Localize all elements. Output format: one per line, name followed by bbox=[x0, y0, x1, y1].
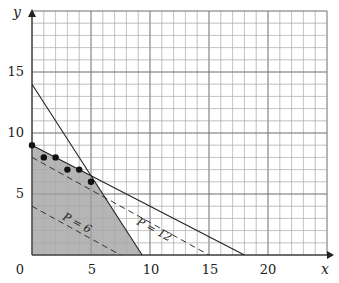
x-axis-label: x bbox=[321, 261, 329, 277]
integer-point bbox=[64, 166, 70, 172]
x-tick-15: 15 bbox=[202, 262, 219, 277]
p12-label: P = 12 bbox=[134, 215, 174, 245]
linear-programming-chart: 0 5 10 15 20 5 10 15 x y P = 6 P = 12 bbox=[0, 0, 339, 283]
shaded-region bbox=[32, 145, 142, 255]
y-tick-10: 10 bbox=[7, 125, 24, 140]
integer-point bbox=[88, 179, 94, 185]
origin-label: 0 bbox=[16, 262, 24, 277]
integer-point bbox=[41, 154, 47, 160]
y-axis-arrow-icon bbox=[28, 9, 36, 17]
x-tick-5: 5 bbox=[88, 262, 96, 277]
integer-point bbox=[76, 166, 82, 172]
feasible-region bbox=[32, 145, 142, 255]
y-tick-5: 5 bbox=[16, 186, 24, 201]
y-tick-15: 15 bbox=[7, 64, 24, 79]
integer-point bbox=[52, 154, 58, 160]
x-tick-20: 20 bbox=[260, 262, 277, 277]
x-axis-arrow-icon bbox=[327, 251, 334, 259]
x-tick-10: 10 bbox=[143, 262, 160, 277]
y-axis-label: y bbox=[12, 4, 22, 20]
